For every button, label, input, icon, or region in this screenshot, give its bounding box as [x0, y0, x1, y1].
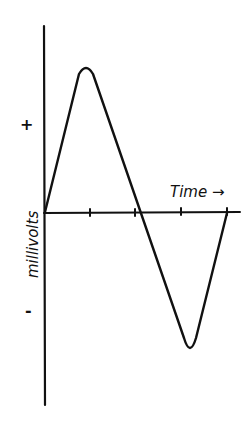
x-axis-label: Time → — [170, 183, 225, 201]
y-axis — [44, 26, 45, 405]
minus-sign: - — [25, 301, 32, 320]
y-axis-label: millivolts — [24, 211, 42, 278]
plus-sign: + — [20, 115, 33, 134]
waveform-diagram: + - millivolts Time → — [0, 0, 251, 424]
voltage-waveform — [45, 68, 227, 348]
